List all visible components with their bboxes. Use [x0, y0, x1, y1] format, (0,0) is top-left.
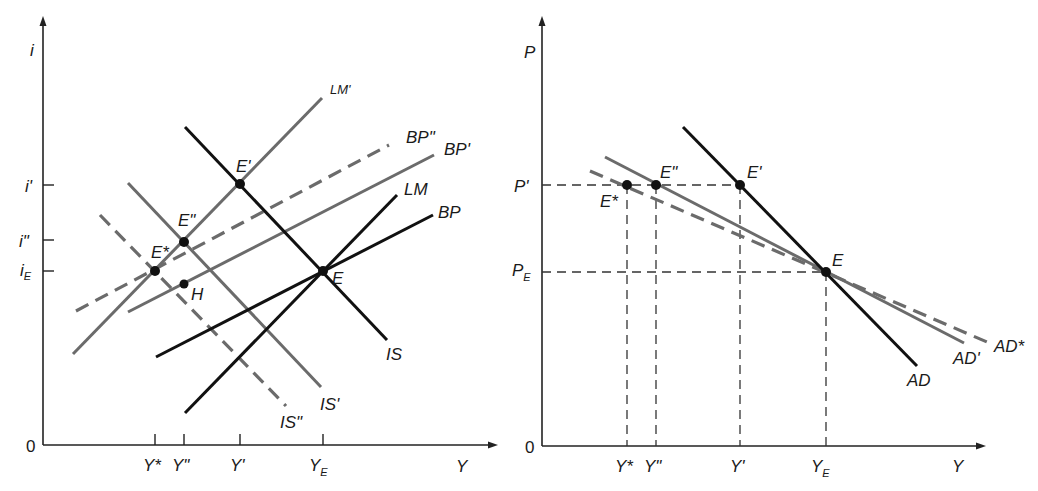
label-lm: LM: [404, 180, 428, 199]
point-h: [180, 280, 189, 289]
label-point-e: E: [332, 269, 344, 288]
x-tick-label-y-e: YE: [309, 456, 328, 478]
x-tick-label-y-star: Y*: [143, 456, 162, 475]
x-tick-label-y-double-prime-right: Y": [644, 457, 662, 476]
y-tick-label-i-e: iE: [20, 261, 32, 282]
point-e-double-prime: [179, 237, 189, 247]
right-x-axis-label: Y: [952, 457, 965, 476]
label-is-prime: IS': [320, 395, 340, 414]
x-tick-label-y-prime-right: Y': [730, 457, 745, 476]
right-x-axis-arrow-icon: [976, 443, 986, 450]
label-ad-prime: AD': [952, 349, 981, 368]
label-bp: BP: [438, 203, 461, 222]
y-tick-label-p-e: PE: [512, 261, 531, 283]
label-point-e-double-prime: E": [178, 211, 196, 230]
point-e-star-right: [622, 180, 632, 190]
curve-ad-star: [590, 171, 987, 342]
x-tick-label-y-star-right: Y*: [615, 457, 634, 476]
left-x-axis-label: Y: [456, 457, 469, 476]
label-point-e-star: E*: [151, 243, 170, 262]
point-e-star: [150, 266, 160, 276]
label-lm-prime: LM': [330, 82, 351, 97]
x-tick-label-y-double-prime: Y": [172, 456, 190, 475]
label-is: IS: [386, 345, 403, 364]
point-e-right: [821, 267, 831, 277]
label-is-double-prime: IS": [280, 413, 303, 432]
point-e-prime-right: [735, 180, 745, 190]
left-panel-is-lm-bp: i Y 0 i' i" iE Y* Y" Y' YE LM' BP" BP': [19, 16, 498, 478]
y-tick-label-i-double-prime: i": [19, 232, 30, 251]
curve-ad: [683, 127, 917, 366]
is-lm-bp-ad-diagram: i Y 0 i' i" iE Y* Y" Y' YE LM' BP" BP': [0, 0, 1038, 491]
right-y-axis-arrow-icon: [539, 16, 546, 26]
label-bp-double-prime: BP": [406, 128, 436, 147]
right-origin-label: 0: [525, 438, 534, 457]
label-point-h: H: [191, 285, 204, 304]
y-tick-label-i-prime: i': [25, 177, 33, 196]
label-ad: AD: [906, 371, 931, 390]
label-ad-star: AD*: [993, 337, 1026, 356]
point-e-prime: [235, 179, 245, 189]
left-y-axis-label: i: [30, 41, 35, 60]
label-point-e-double-prime-right: E": [660, 163, 678, 182]
label-point-e-prime-right: E': [747, 163, 762, 182]
left-x-axis-arrow-icon: [488, 442, 498, 449]
point-e: [318, 266, 328, 276]
label-bp-prime: BP': [444, 140, 471, 159]
right-panel-ad: P Y 0 P' PE Y* Y" Y' YE AD AD' AD* E E' …: [512, 16, 1026, 479]
right-y-axis-label: P: [524, 43, 536, 62]
x-tick-label-y-prime: Y': [230, 456, 245, 475]
left-origin-label: 0: [26, 437, 35, 456]
label-point-e-prime: E': [236, 157, 251, 176]
y-tick-label-p-prime: P': [514, 177, 529, 196]
label-point-e-right: E: [832, 251, 844, 270]
label-point-e-star-right: E*: [600, 192, 619, 211]
x-tick-label-y-e-right: YE: [811, 457, 830, 479]
left-y-axis-arrow-icon: [40, 16, 47, 26]
